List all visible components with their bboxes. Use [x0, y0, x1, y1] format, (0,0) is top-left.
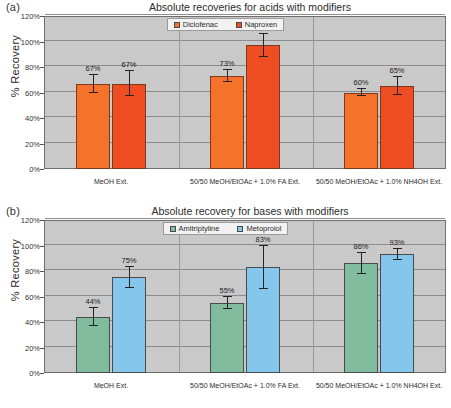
- error-bar-cap-upper: [393, 248, 402, 249]
- error-bar-cap-upper: [89, 307, 98, 308]
- legend-a: DiclofenacNaproxen: [167, 18, 285, 31]
- y-axis-tick-label: 60%: [0, 292, 40, 301]
- y-axis-tick-mark: [40, 42, 44, 43]
- y-axis-tick-label: 20%: [0, 139, 40, 148]
- error-bar-cap-upper: [393, 76, 402, 77]
- error-bar-cap-upper: [223, 296, 232, 297]
- error-bar-cap-upper: [357, 88, 366, 89]
- error-bar-stem-lower: [129, 84, 130, 97]
- error-bar-cap-upper: [89, 74, 98, 75]
- legend-item[interactable]: Amitriptyline: [170, 224, 220, 233]
- figure-container: (a) Absolute recoveries for acids with m…: [0, 0, 451, 408]
- y-axis-tick-mark: [40, 144, 44, 145]
- gridline: [45, 14, 445, 15]
- chart-title-a: Absolute recoveries for acids with modif…: [55, 1, 445, 13]
- y-axis-tick-label: 120%: [0, 12, 40, 21]
- x-axis-category-label: 50/50 MeOH/EtOAc + 1.0% NH4OH Ext.: [316, 382, 442, 389]
- legend-item[interactable]: Diclofenac: [174, 20, 218, 29]
- y-axis-tick-mark: [40, 246, 44, 247]
- data-label: 86%: [353, 242, 368, 251]
- bar: [344, 263, 378, 373]
- x-axis-category-label: MeOH Ext.: [94, 382, 128, 389]
- y-axis-tick-mark: [40, 220, 44, 221]
- y-axis-tick-mark: [40, 169, 44, 170]
- y-axis-tick-label: 80%: [0, 267, 40, 276]
- legend-item[interactable]: Naproxen: [236, 20, 278, 29]
- data-label: 93%: [389, 238, 404, 247]
- y-axis-tick-label: 0%: [0, 369, 40, 378]
- y-axis-tick-mark: [40, 297, 44, 298]
- legend-item[interactable]: Metoprolol: [237, 224, 281, 233]
- data-label: 73%: [219, 59, 234, 68]
- error-bar-stem-lower: [227, 76, 228, 82]
- error-bar-stem: [129, 71, 130, 84]
- bar: [76, 84, 110, 169]
- error-bar-stem-lower: [93, 84, 94, 93]
- error-bar-stem: [93, 75, 94, 84]
- error-bar-cap-upper: [125, 266, 134, 267]
- bar: [380, 86, 414, 169]
- x-axis-category-label: MeOH Ext.: [94, 178, 128, 185]
- bar: [380, 254, 414, 373]
- y-axis-tick-label: 0%: [0, 165, 40, 174]
- y-axis-tick-mark: [40, 271, 44, 272]
- error-bar-stem-lower: [263, 45, 264, 56]
- error-bar-stem: [93, 308, 94, 317]
- x-axis-category-label: 50/50 MeOH/EtOAc + 1.0% FA Ext.: [190, 382, 300, 389]
- y-axis-tick-label: 120%: [0, 216, 40, 225]
- error-bar-cap-upper: [259, 245, 268, 246]
- y-axis-tick-mark: [40, 373, 44, 374]
- y-axis-tick-label: 60%: [0, 88, 40, 97]
- error-bar-stem-lower: [361, 93, 362, 97]
- error-bar-stem-lower: [361, 263, 362, 273]
- error-bar-stem: [263, 246, 264, 268]
- legend-swatch-icon: [237, 226, 243, 232]
- bar: [210, 303, 244, 373]
- legend-swatch-icon: [170, 226, 176, 232]
- chart-panel-a: (a) Absolute recoveries for acids with m…: [0, 0, 451, 204]
- y-axis-tick-mark: [40, 322, 44, 323]
- error-bar-stem: [361, 253, 362, 263]
- y-axis-tick-label: 80%: [0, 63, 40, 72]
- bar-layer-b: 44%55%86%75%83%93%: [44, 220, 446, 373]
- y-axis-tick-label: 40%: [0, 318, 40, 327]
- y-axis-tick-label: 40%: [0, 114, 40, 123]
- legend-label: Amitriptyline: [179, 224, 220, 233]
- chart-panel-b: (b) Absolute recovery for bases with mod…: [0, 204, 451, 408]
- y-axis-tick-label: 100%: [0, 37, 40, 46]
- y-axis-tick-label: 20%: [0, 343, 40, 352]
- data-label: 60%: [353, 78, 368, 87]
- y-axis-tick-mark: [40, 67, 44, 68]
- legend-label: Naproxen: [245, 20, 278, 29]
- data-label: 44%: [85, 297, 100, 306]
- y-axis-tick-mark: [40, 348, 44, 349]
- x-axis-category-label: 50/50 MeOH/EtOAc + 1.0% NH4OH Ext.: [316, 178, 442, 185]
- y-axis-tick-mark: [40, 93, 44, 94]
- legend-swatch-icon: [174, 22, 180, 28]
- legend-label: Metoprolol: [246, 224, 281, 233]
- legend-swatch-icon: [236, 22, 242, 28]
- data-label: 83%: [255, 235, 270, 244]
- error-bar-stem-lower: [129, 277, 130, 287]
- error-bar-cap-upper: [357, 252, 366, 253]
- data-label: 67%: [121, 60, 136, 69]
- data-label: 75%: [121, 256, 136, 265]
- legend-label: Diclofenac: [183, 20, 218, 29]
- legend-b: AmitriptylineMetoprolol: [163, 222, 289, 235]
- gridline: [45, 218, 445, 219]
- bar: [112, 84, 146, 169]
- error-bar-cap-upper: [223, 69, 232, 70]
- error-bar-cap-upper: [259, 33, 268, 34]
- chart-title-b: Absolute recovery for bases with modifie…: [55, 205, 445, 217]
- bar: [344, 93, 378, 170]
- bar: [112, 277, 146, 373]
- data-label: 55%: [219, 286, 234, 295]
- error-bar-stem-lower: [397, 86, 398, 95]
- error-bar-stem: [129, 267, 130, 277]
- error-bar-stem-lower: [263, 267, 264, 289]
- error-bar-stem: [397, 77, 398, 86]
- data-label: 65%: [389, 66, 404, 75]
- error-bar-stem-lower: [397, 254, 398, 259]
- data-label: 67%: [85, 64, 100, 73]
- error-bar-stem: [263, 34, 264, 45]
